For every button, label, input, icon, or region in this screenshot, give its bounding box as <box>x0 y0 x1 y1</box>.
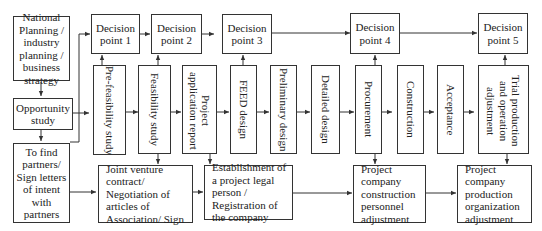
phase-feed-design: FEED design <box>230 65 257 154</box>
phase-detailed-design-label: Detailed design <box>319 75 332 144</box>
phase-acceptance-label: Acceptance <box>444 84 457 135</box>
legal-person-box: Establishment of a project legal person … <box>204 165 293 220</box>
phase-trial-production-label: Trial production and operation adjustmen… <box>485 70 523 152</box>
phase-feasibility-label: Feasibility study <box>148 73 161 146</box>
decision-point-1: Decision point 1 <box>91 14 140 54</box>
decision-point-2: Decision point 2 <box>151 14 202 54</box>
production-organization-box: Project company production organization … <box>457 165 532 223</box>
construction-personnel-label: Project company construction personnel a… <box>361 163 425 226</box>
decision-point-1-label: Decision point 1 <box>92 22 139 47</box>
phase-procurement: Procurement <box>355 65 382 154</box>
find-partners-label: To find partners/ Sign letters of intent… <box>16 146 67 221</box>
phase-feasibility: Feasibility study <box>138 65 171 154</box>
decision-point-4-label: Decision point 4 <box>351 21 399 46</box>
phase-preliminary-design: Preliminary design <box>270 65 297 154</box>
phase-project-application-label: Project application report <box>187 72 212 150</box>
phase-trial-production: Trial production and operation adjustmen… <box>478 65 529 154</box>
decision-point-5-label: Decision point 5 <box>479 21 527 46</box>
decision-point-4: Decision point 4 <box>350 13 400 54</box>
opportunity-study-box: Opportunity study <box>13 98 73 130</box>
phase-feed-design-label: FEED design <box>237 80 250 139</box>
legal-person-label: Establishment of a project legal person … <box>212 161 292 224</box>
phase-project-application: Project application report <box>182 65 217 154</box>
phase-pre-feasibility-label: Pre-feasibility study <box>103 66 116 155</box>
phase-construction-label: Construction <box>404 81 417 138</box>
planning-label: National Planning / industry planning / … <box>16 11 67 86</box>
planning-box: National Planning / industry planning / … <box>13 16 70 81</box>
opportunity-study-label: Opportunity study <box>14 102 72 127</box>
phase-procurement-label: Procurement <box>362 81 375 137</box>
decision-point-5: Decision point 5 <box>478 13 528 54</box>
phase-detailed-design: Detailed design <box>311 65 340 154</box>
joint-venture-label: Joint venture contract/ Negotiation of a… <box>106 163 192 226</box>
find-partners-box: To find partners/ Sign letters of intent… <box>13 143 70 223</box>
phase-pre-feasibility: Pre-feasibility study <box>93 65 126 155</box>
decision-point-3-label: Decision point 3 <box>223 22 271 47</box>
construction-personnel-box: Project company construction personnel a… <box>353 165 426 223</box>
phase-acceptance: Acceptance <box>437 65 464 154</box>
joint-venture-box: Joint venture contract/ Negotiation of a… <box>98 165 193 223</box>
phase-preliminary-design-label: Preliminary design <box>277 68 290 151</box>
phase-construction: Construction <box>397 65 424 154</box>
decision-point-2-label: Decision point 2 <box>152 22 201 47</box>
production-organization-label: Project company production organization … <box>465 163 531 226</box>
decision-point-3: Decision point 3 <box>222 14 272 54</box>
